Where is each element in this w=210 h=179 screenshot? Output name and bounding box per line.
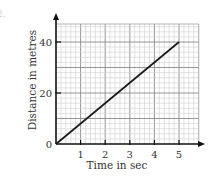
x-tick-label: 1: [77, 149, 83, 160]
x-axis-arrow-icon: [198, 141, 205, 147]
y-tick-label: 40: [39, 37, 52, 48]
y-tick-label: 0: [46, 139, 52, 150]
y-axis-arrow-icon: [53, 13, 59, 20]
y-tick-label: 20: [39, 88, 52, 99]
distance-time-chart: 1234502040 Time in sec Distance in metre…: [0, 0, 210, 179]
y-axis-title: Distance in metres: [26, 30, 38, 130]
x-axis-title: Time in sec: [87, 159, 148, 171]
x-tick-label: 5: [176, 149, 182, 160]
x-tick-label: 4: [151, 149, 157, 160]
